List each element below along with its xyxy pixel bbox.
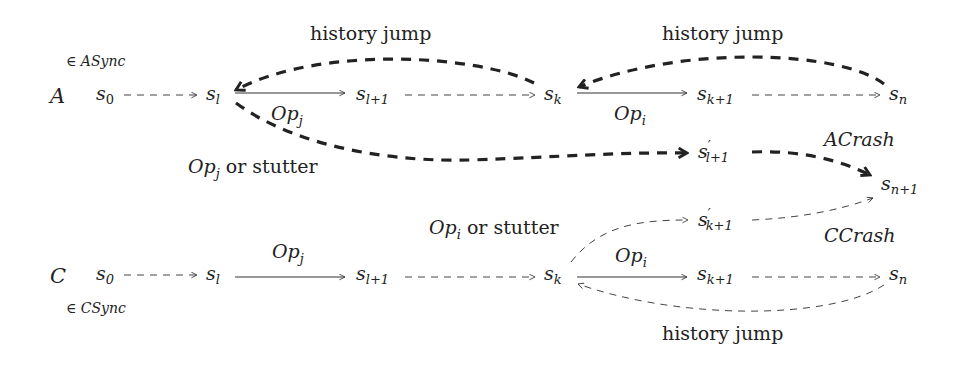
a-opi-label: Opi xyxy=(614,102,646,128)
c-opi-or-stutter-label: Opior stutter xyxy=(429,216,560,242)
c-node-sl1: sl+1 xyxy=(356,262,389,287)
c-opi-label: Opi xyxy=(615,244,647,270)
row-c-set: ∈ CSync xyxy=(66,300,126,316)
c-node-sn: sn xyxy=(889,262,907,287)
c-opj-label: Opj xyxy=(272,240,304,266)
a-acrash-label: ACrash xyxy=(822,128,895,150)
a-node-s0: s0 xyxy=(96,82,114,107)
row-a-label: A xyxy=(48,84,65,108)
node-sn1: sn+1 xyxy=(881,172,918,197)
a-history-jump-sk-to-sl xyxy=(236,59,534,90)
c-history-jump-sn-to-sk xyxy=(578,284,884,311)
row-c-label: C xyxy=(50,264,66,288)
diagram-svg: A ∈ ASync s0 sl sl+1 sk sk+1 sn history … xyxy=(0,0,966,366)
a-node-sn: sn xyxy=(889,82,907,107)
c-node-sk1-prime: s′k+1 xyxy=(698,206,733,233)
async-set-label: ∈ ASync xyxy=(66,53,125,69)
csync-set-label: ∈ CSync xyxy=(66,300,126,316)
c-node-sl: sl xyxy=(206,262,220,287)
c-node-sk: sk xyxy=(544,262,562,287)
a-node-sl1: sl+1 xyxy=(356,82,389,107)
a-history-jump-sn-to-sk xyxy=(579,57,884,87)
a-node-sl: sl xyxy=(206,82,220,107)
row-a: A ∈ ASync s0 sl sl+1 sk sk+1 sn history … xyxy=(48,22,907,181)
c-ccrash-label: CCrash xyxy=(824,224,895,246)
c-node-s0: s0 xyxy=(96,262,114,287)
c-history-jump-label: history jump xyxy=(662,322,783,344)
a-opj-label: Opj xyxy=(271,102,303,128)
a-node-sk: sk xyxy=(544,82,562,107)
a-history-jump-label-right: history jump xyxy=(662,22,783,44)
row-a-set: ∈ ASync xyxy=(66,53,125,69)
a-opj-or-stutter-label: Opjor stutter xyxy=(188,155,318,181)
a-history-jump-label-left: history jump xyxy=(310,22,431,44)
c-edge-ccrash xyxy=(752,198,873,220)
c-node-sk1: sk+1 xyxy=(697,262,734,287)
a-node-sl1-prime: s′l+1 xyxy=(698,138,729,165)
a-node-sk1: sk+1 xyxy=(697,82,734,107)
refinement-diagram: A ∈ ASync s0 sl sl+1 sk sk+1 sn history … xyxy=(0,0,966,366)
a-edge-acrash xyxy=(752,152,870,175)
row-c: C ∈ CSync s0 sl sl+1 sk sk+1 sn Opj Opi … xyxy=(50,198,907,344)
